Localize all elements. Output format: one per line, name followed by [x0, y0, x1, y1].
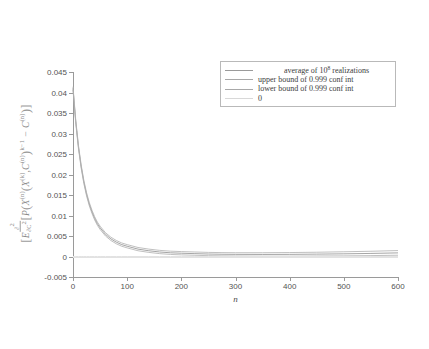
- legend-item: upper bound of 0.999 conf int: [224, 75, 391, 85]
- x-tick-mark: [290, 277, 291, 281]
- y-axis-label-container: [E∂2∂C2[P(X(n)(X(k),C(n))k−1 − C(n))]: [2, 6, 40, 342]
- y-tick-label: 0.02: [51, 170, 67, 179]
- x-tick-mark: [236, 277, 237, 281]
- legend-label: upper bound of 0.999 conf int: [258, 75, 354, 85]
- x-tick-mark: [73, 277, 74, 281]
- series-line: [73, 88, 398, 254]
- y-tick-label: 0: [63, 252, 67, 261]
- series-line: [73, 90, 398, 256]
- legend-item: average of 108 realizations: [224, 65, 391, 75]
- x-tick-label: 200: [175, 282, 188, 291]
- x-tick-mark: [127, 277, 128, 281]
- x-tick-label: 300: [229, 282, 242, 291]
- y-tick-label: 0.035: [47, 109, 67, 118]
- figure-canvas: [E∂2∂C2[P(X(n)(X(k),C(n))k−1 − C(n))] -0…: [0, 0, 429, 349]
- legend-label: 0: [258, 94, 262, 104]
- legend-item: 0: [224, 94, 391, 104]
- y-tick-label: -0.005: [44, 273, 67, 282]
- legend-swatch: [224, 75, 254, 84]
- x-tick-label: 500: [337, 282, 350, 291]
- legend-swatch: [224, 94, 254, 103]
- legend-swatch: [224, 65, 254, 74]
- y-axis-label: [E∂2∂C2[P(X(n)(X(k),C(n))k−1 − C(n))]: [8, 105, 33, 244]
- y-tick-label: 0.04: [51, 88, 67, 97]
- y-tick-label: 0.01: [51, 211, 67, 220]
- x-tick-label: 100: [120, 282, 133, 291]
- y-tick-label: 0.025: [47, 150, 67, 159]
- legend: average of 108 realizationsupper bound o…: [220, 61, 396, 107]
- x-tick-label: 0: [71, 282, 75, 291]
- legend-item: lower bound of 0.999 conf int: [224, 84, 391, 94]
- y-tick-label: 0.015: [47, 191, 67, 200]
- series-line: [73, 87, 398, 253]
- y-tick-label: 0.005: [47, 232, 67, 241]
- y-tick-label: 0.045: [47, 68, 67, 77]
- x-tick-label: 400: [283, 282, 296, 291]
- x-tick-label: 600: [391, 282, 404, 291]
- x-tick-mark: [181, 277, 182, 281]
- legend-label: lower bound of 0.999 conf int: [258, 84, 354, 94]
- legend-swatch: [224, 84, 254, 93]
- x-tick-mark: [344, 277, 345, 281]
- y-tick-label: 0.03: [51, 129, 67, 138]
- x-axis-label: n: [73, 294, 398, 304]
- x-tick-mark: [398, 277, 399, 281]
